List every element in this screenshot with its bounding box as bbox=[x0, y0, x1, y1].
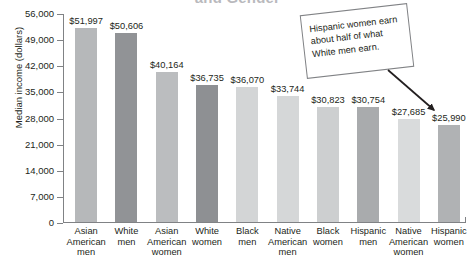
y-axis-tick bbox=[57, 223, 63, 224]
bar-value-label: $40,164 bbox=[150, 60, 184, 70]
bar bbox=[357, 107, 379, 222]
y-axis-tick-label: 21,000 bbox=[0, 140, 54, 150]
x-axis-category-label: Native American men bbox=[268, 226, 307, 258]
bar-value-label: $33,744 bbox=[271, 84, 305, 94]
annotation-callout-text: Hispanic women earn about half of what W… bbox=[309, 12, 409, 60]
x-axis-right-cap bbox=[465, 217, 466, 223]
bar bbox=[196, 85, 218, 222]
y-axis-tick bbox=[57, 197, 63, 198]
annotation-callout-box: Hispanic women earn about half of what W… bbox=[300, 3, 415, 79]
y-axis-tick-label: 14,000 bbox=[0, 166, 54, 176]
x-axis-category-label: White men bbox=[115, 226, 139, 247]
x-axis-category-label: Black women bbox=[313, 226, 343, 247]
x-axis-category-label: Black men bbox=[236, 226, 259, 247]
y-axis-tick bbox=[57, 171, 63, 172]
income-bar-chart: and Gender Median income (dollars) 56,00… bbox=[0, 0, 475, 265]
bar-value-label: $36,735 bbox=[190, 73, 224, 83]
bar bbox=[438, 125, 460, 222]
bar bbox=[75, 28, 97, 222]
bar bbox=[115, 33, 137, 222]
x-axis-line bbox=[63, 222, 466, 223]
y-axis-line bbox=[63, 14, 64, 223]
bar-value-label: $36,070 bbox=[231, 75, 265, 85]
y-axis-tick-label: 35,000 bbox=[0, 88, 54, 98]
x-axis-category-label: Asian American men bbox=[67, 226, 106, 258]
y-axis-tick-label: 49,000 bbox=[0, 35, 54, 45]
y-axis-tick bbox=[57, 14, 63, 15]
x-axis-category-label: White women bbox=[192, 226, 222, 247]
y-axis-tick bbox=[57, 40, 63, 41]
bar bbox=[277, 96, 299, 222]
bar-value-label: $50,606 bbox=[110, 21, 144, 31]
y-axis-tick bbox=[57, 92, 63, 93]
y-axis-tick-label: 56,000 bbox=[0, 9, 54, 19]
bar-value-label: $51,997 bbox=[69, 16, 103, 26]
bar-value-label: $30,754 bbox=[351, 95, 385, 105]
bar-value-label: $25,990 bbox=[432, 113, 466, 123]
y-axis-tick-label: 7,000 bbox=[0, 192, 54, 202]
bar bbox=[398, 119, 420, 222]
y-axis-tick-label: 42,000 bbox=[0, 62, 54, 72]
bar-value-label: $30,823 bbox=[311, 95, 345, 105]
bar bbox=[236, 87, 258, 222]
x-axis-category-label: Hispanic men bbox=[350, 226, 386, 247]
bar bbox=[317, 107, 339, 222]
y-axis-tick-label: 28,000 bbox=[0, 114, 54, 124]
x-axis-category-label: Hispanic women bbox=[431, 226, 467, 247]
y-axis-tick bbox=[57, 119, 63, 120]
bar-value-label: $27,685 bbox=[392, 107, 426, 117]
y-axis-tick bbox=[57, 66, 63, 67]
bar bbox=[156, 72, 178, 222]
x-axis-category-label: Native American women bbox=[389, 226, 428, 258]
y-axis-tick bbox=[57, 145, 63, 146]
x-axis-category-label: Asian American women bbox=[147, 226, 186, 258]
y-axis-tick-label: 0 bbox=[0, 218, 54, 228]
